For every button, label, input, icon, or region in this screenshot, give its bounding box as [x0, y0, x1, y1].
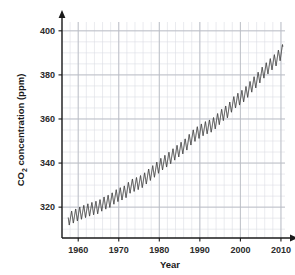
x-tick-label: 2010 — [271, 245, 291, 255]
y-axis-title-suffix: concentration (ppm) — [15, 74, 26, 168]
y-axis-title: CO2 concentration (ppm) — [15, 74, 28, 187]
x-tick-label: 1980 — [149, 245, 169, 255]
x-tick-label: 1960 — [68, 245, 88, 255]
y-tick-label: 340 — [40, 158, 55, 168]
x-tick-label: 1970 — [109, 245, 129, 255]
axis-lines — [59, 10, 295, 241]
y-tick-label: 380 — [40, 70, 55, 80]
chart-canvas: 196019701980199020002010 320340360380400… — [0, 0, 295, 275]
co2-concentration-chart: 196019701980199020002010 320340360380400… — [0, 0, 295, 275]
y-tick-label: 360 — [40, 114, 55, 124]
x-tick-label: 2000 — [230, 245, 250, 255]
y-tick-label: 400 — [40, 26, 55, 36]
x-tick-label: 1990 — [190, 245, 210, 255]
y-axis-title-prefix: CO — [15, 172, 26, 186]
y-tick-label: 320 — [40, 202, 55, 212]
x-axis-tick-labels: 196019701980199020002010 — [68, 245, 291, 255]
axis-ticks — [59, 31, 281, 242]
y-axis-title-text: CO2 concentration (ppm) — [15, 74, 28, 187]
x-axis-title: Year — [160, 259, 180, 270]
y-axis-tick-labels: 320340360380400 — [40, 26, 55, 212]
